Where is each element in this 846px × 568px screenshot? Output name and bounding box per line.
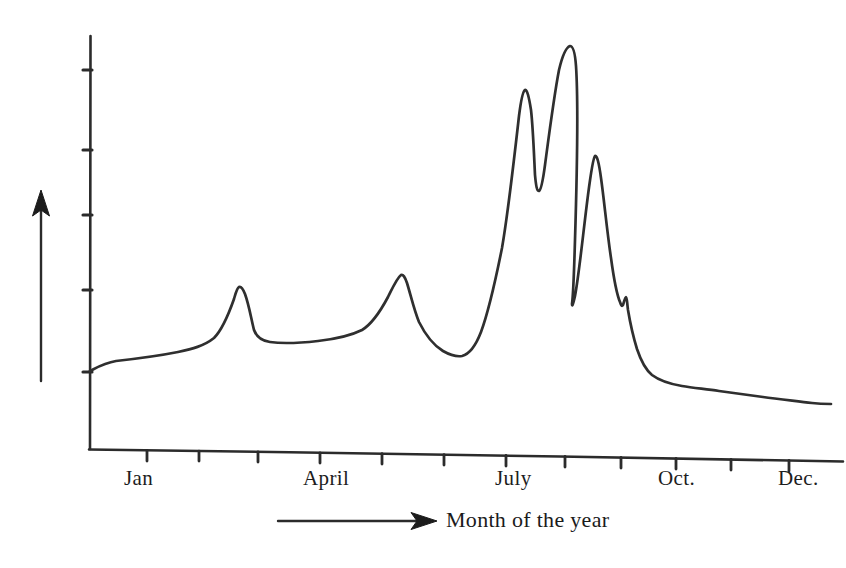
figure-root: Discharge Jan April July Oct. Dec. Month… (0, 0, 846, 568)
discharge-axis-arrow (33, 190, 50, 381)
x-tick-label-jan: Jan (124, 466, 153, 491)
x-tick-label-july: July (495, 466, 532, 491)
x-tick-label-oct: Oct. (658, 466, 695, 491)
y-axis-line (90, 36, 91, 449)
x-axis-title: Month of the year (446, 507, 609, 533)
x-tick-label-dec: Dec. (778, 466, 819, 491)
y-axis-title: Discharge (0, 162, 120, 206)
month-axis-arrow (278, 513, 437, 530)
discharge-curve (90, 46, 831, 404)
x-tick-label-april: April (303, 466, 349, 491)
